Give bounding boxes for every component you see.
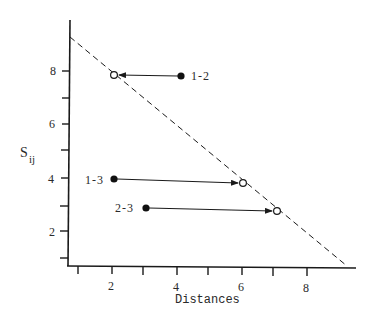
- y-tick-labels: 8 6 4 2: [48, 64, 56, 239]
- y-axis-title-main: S: [20, 145, 28, 160]
- x-tick-label-2: 2: [108, 279, 114, 293]
- x-tick-label-4: 4: [173, 280, 179, 294]
- chart: 8 6 4 2 2 4 6 8 Distances S ij: [0, 0, 371, 317]
- point-2-3-observed: [142, 204, 149, 211]
- y-tick-label-6: 6: [49, 117, 55, 131]
- axes: [67, 20, 356, 268]
- point-1-2-fitted: [111, 72, 118, 79]
- x-axis-title: Distances: [175, 293, 240, 307]
- y-axis: [68, 20, 70, 266]
- pair-label-2-3: 2-3: [115, 201, 134, 215]
- point-1-3-observed: [110, 175, 117, 182]
- observed-points: [110, 72, 184, 211]
- y-axis-title: S ij: [20, 145, 35, 165]
- pair-label-1-3: 1-3: [85, 173, 104, 187]
- pair-label-1-2: 1-2: [191, 69, 210, 83]
- x-tick-label-8: 8: [303, 281, 309, 295]
- point-2-3-fitted: [274, 208, 281, 215]
- x-tick-label-6: 6: [238, 280, 244, 294]
- fitted-points: [111, 72, 281, 215]
- pair-labels: 1-2 1-3 2-3: [85, 69, 210, 215]
- point-1-3-fitted: [240, 180, 247, 187]
- arrow-2-3: [149, 208, 272, 211]
- chart-svg: 8 6 4 2 2 4 6 8 Distances S ij: [0, 0, 371, 317]
- arrow-1-2: [119, 75, 178, 76]
- point-1-2-observed: [177, 72, 184, 79]
- arrow-1-3: [117, 179, 238, 183]
- y-tick-label-2: 2: [49, 225, 55, 239]
- y-axis-title-subscript: ij: [29, 153, 35, 165]
- x-axis: [67, 266, 356, 268]
- y-tick-label-4: 4: [48, 172, 54, 186]
- y-tick-label-8: 8: [50, 64, 56, 78]
